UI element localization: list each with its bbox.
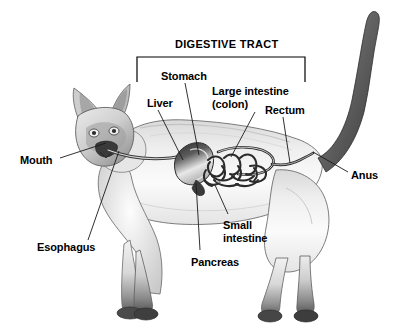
label-rectum: Rectum <box>265 104 305 116</box>
label-small-intestine: Smallintestine <box>223 219 267 244</box>
diagram-title: DIGESTIVE TRACT <box>175 38 279 50</box>
diagram-canvas: DIGESTIVE TRACT Mouth Esophagus Liver St… <box>0 0 396 335</box>
label-stomach: Stomach <box>161 70 207 82</box>
label-pancreas: Pancreas <box>191 256 239 268</box>
label-large-intestine-line2: (colon) <box>212 98 248 110</box>
label-liver: Liver <box>147 97 173 109</box>
label-small-intestine-line2: intestine <box>223 232 267 244</box>
cat-digestive-tract-illustration <box>0 0 396 335</box>
label-mouth: Mouth <box>20 154 52 166</box>
label-large-intestine-line1: Large intestine <box>212 85 289 97</box>
label-anus: Anus <box>351 169 378 181</box>
cat-body-group <box>73 12 379 323</box>
label-esophagus: Esophagus <box>37 241 95 253</box>
label-small-intestine-line1: Small <box>223 219 252 231</box>
